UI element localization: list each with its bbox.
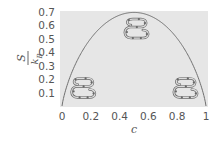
y-tick-label: 0.5 bbox=[38, 33, 55, 45]
y-tick-label: 0.2 bbox=[38, 73, 55, 85]
svg-text:S: S bbox=[15, 54, 28, 62]
entropy-chart: 0.10.20.30.40.50.60.7 00.20.40.60.81 S k… bbox=[0, 0, 222, 141]
x-axis-label: c bbox=[131, 123, 137, 136]
y-tick-label: 0.6 bbox=[38, 19, 55, 31]
x-tick-label: 0.8 bbox=[169, 110, 186, 122]
x-tick-label: 0.2 bbox=[82, 110, 99, 122]
x-tick-label: 0.4 bbox=[111, 110, 128, 122]
plot-area bbox=[60, 11, 208, 107]
y-tick-label: 0.3 bbox=[38, 60, 55, 72]
x-tick-label: 0.6 bbox=[140, 110, 157, 122]
y-tick-label: 0.1 bbox=[38, 87, 55, 99]
y-tick-label: 0.7 bbox=[38, 6, 55, 18]
x-tick-label: 1 bbox=[203, 110, 210, 122]
x-tick-label: 0 bbox=[59, 110, 66, 122]
